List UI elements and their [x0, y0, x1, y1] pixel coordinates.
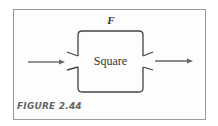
- output-port-icon: [143, 52, 153, 70]
- function-name-label: F: [104, 14, 118, 26]
- input-arrow-icon: [28, 60, 65, 65]
- input-port-icon: [67, 52, 78, 70]
- function-box-bottom: [78, 67, 143, 92]
- function-box: [78, 31, 143, 56]
- box-label: Square: [78, 54, 143, 69]
- figure-caption: FIGURE 2.44: [17, 101, 82, 111]
- output-arrow-icon: [155, 59, 193, 64]
